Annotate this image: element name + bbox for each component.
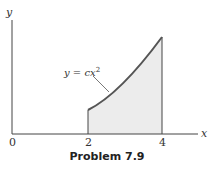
x-axis-label: x [201,127,207,140]
leader-line [93,76,109,92]
y-axis-label: y [6,6,12,19]
caption: Problem 7.9 [0,150,214,163]
tick-2: 2 [85,136,92,149]
tick-4: 4 [159,136,166,149]
tick-0: 0 [9,136,16,149]
diagram-graphic [0,0,214,171]
figure: y x 0 2 4 y = cx2 Problem 7.9 [0,0,214,171]
curve-label: y = cx2 [64,66,100,78]
